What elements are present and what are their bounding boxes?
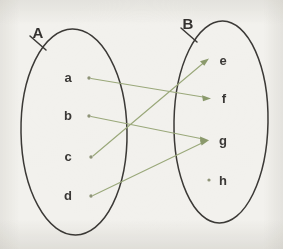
arrow-d-to-g-head xyxy=(200,140,209,146)
element-g: g xyxy=(219,133,227,148)
element-d-dot xyxy=(89,194,92,197)
element-f: f xyxy=(222,91,227,106)
element-d-label: d xyxy=(64,188,72,203)
element-g-label: g xyxy=(219,133,227,148)
element-b: b xyxy=(64,108,91,123)
element-b-dot xyxy=(87,114,90,117)
set-b-group: B e f g h xyxy=(172,15,270,224)
element-a: a xyxy=(64,70,90,85)
element-c-label: c xyxy=(64,149,71,164)
arrow-a-to-f xyxy=(91,79,211,102)
element-h-dot xyxy=(207,178,210,181)
element-c-dot xyxy=(89,155,92,158)
element-d: d xyxy=(64,188,93,203)
arrow-c-to-e-line xyxy=(93,63,204,157)
element-c: c xyxy=(64,149,92,164)
element-h: h xyxy=(207,173,227,188)
element-a-dot xyxy=(87,76,90,79)
element-a-label: a xyxy=(64,70,72,85)
element-f-label: f xyxy=(222,91,227,106)
element-h-label: h xyxy=(219,173,227,188)
arrow-b-to-g xyxy=(91,117,209,143)
set-b-oval xyxy=(172,20,270,224)
set-a-oval xyxy=(19,28,129,236)
mapping-arrows-group xyxy=(91,59,211,196)
element-b-label: b xyxy=(64,108,72,123)
arrow-c-to-e xyxy=(93,59,209,157)
set-a-label: A xyxy=(33,24,44,41)
diagram-canvas: A a b c d xyxy=(0,0,283,249)
arrow-a-to-f-line xyxy=(91,79,206,98)
set-a-group: A a b c d xyxy=(19,24,129,236)
set-mapping-diagram: A a b c d xyxy=(0,0,283,249)
arrow-b-to-g-line xyxy=(91,117,203,140)
arrow-d-to-g xyxy=(93,140,209,196)
arrow-a-to-f-head xyxy=(202,95,211,101)
set-b-label: B xyxy=(183,15,194,32)
element-e-label: e xyxy=(219,53,226,68)
arrow-d-to-g-line xyxy=(93,143,203,196)
element-e: e xyxy=(219,53,226,68)
